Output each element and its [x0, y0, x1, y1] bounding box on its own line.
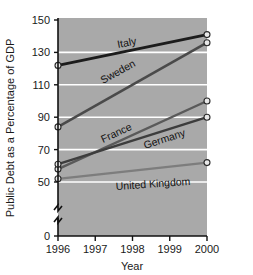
y-tick-label-0: 0	[44, 230, 50, 242]
x-tick-label-2000: 2000	[195, 243, 219, 255]
data-point-sweden-2000	[204, 40, 210, 46]
y-tick-label-90: 90	[38, 111, 50, 123]
x-tick-label-1997: 1997	[83, 243, 107, 255]
y-tick-label-50: 50	[38, 176, 50, 188]
x-tick-label-1999: 1999	[158, 243, 182, 255]
x-axis-title: Year	[121, 260, 144, 272]
data-point-france-2000	[204, 98, 210, 104]
y-tick-label-150: 150	[32, 14, 50, 26]
data-point-italy-2000	[204, 32, 210, 38]
x-tick-label-1998: 1998	[120, 243, 144, 255]
y-tick-label-70: 70	[38, 144, 50, 156]
y-tick-label-130: 130	[32, 46, 50, 58]
x-tick-label-1996: 1996	[46, 243, 70, 255]
y-tick-label-110: 110	[32, 79, 50, 91]
data-point-united-kingdom-2000	[204, 160, 210, 166]
y-axis-title: Public Debt as a Percentage of GDP	[4, 39, 16, 218]
chart-canvas: Italy Sweden France Germany United Kingd…	[0, 0, 253, 275]
line-chart: Italy Sweden France Germany United Kingd…	[0, 0, 253, 275]
data-point-germany-2000	[204, 114, 210, 120]
